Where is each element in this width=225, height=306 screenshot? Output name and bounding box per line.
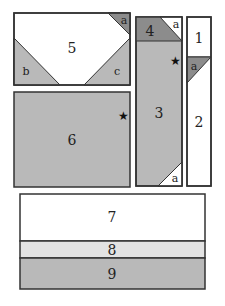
piece-4-label: 4	[146, 23, 155, 39]
piece-7-label: 7	[108, 209, 117, 225]
corner-a-label: a	[121, 14, 128, 27]
star-icon: ★	[118, 109, 129, 123]
quilt-diagram: 5 b c a 6 ★ 4 a 3 ★ a 1 a 2	[0, 0, 225, 306]
corner-b-label: b	[22, 65, 29, 78]
star-icon: ★	[170, 54, 181, 68]
piece-1-2-column: 1 a 2	[187, 17, 211, 186]
corner-a-piece-4-label: a	[173, 18, 180, 31]
corner-c-label: c	[114, 65, 120, 78]
piece-6-label: 6	[68, 132, 77, 148]
piece-9-label: 9	[108, 266, 117, 282]
piece-5-block: 5 b c a	[14, 13, 130, 85]
piece-3-4-column: 4 a 3 ★ a	[136, 17, 182, 186]
corner-a-piece-3-label: a	[172, 172, 179, 185]
piece-2-label: 2	[195, 114, 204, 130]
piece-8-label: 8	[108, 242, 117, 258]
piece-5-label: 5	[68, 40, 77, 56]
piece-6-block: 6 ★	[14, 92, 130, 187]
piece-1-label: 1	[195, 30, 204, 46]
piece-7-8-9-block: 7 8 9	[20, 194, 205, 289]
piece-3-label: 3	[155, 105, 164, 121]
corner-a-strip-label: a	[191, 60, 198, 73]
